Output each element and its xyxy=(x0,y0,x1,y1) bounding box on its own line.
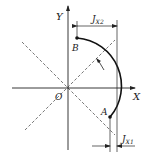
extension-lines xyxy=(77,20,117,152)
point-b-label: B xyxy=(71,43,79,53)
circular-interpolation-diagram: Y X O B A JX2 JX1 xyxy=(0,0,157,163)
y-axis-label: Y xyxy=(56,11,64,22)
dimension-top-label: JX2 xyxy=(90,14,104,25)
origin-label: O xyxy=(55,92,63,102)
dashed-diagonals xyxy=(22,40,115,135)
axes xyxy=(12,6,135,150)
point-a-label: A xyxy=(100,107,108,117)
x-axis-label: X xyxy=(132,91,141,102)
dimension-bottom-label: JX1 xyxy=(120,134,134,145)
arc-path xyxy=(77,38,121,117)
